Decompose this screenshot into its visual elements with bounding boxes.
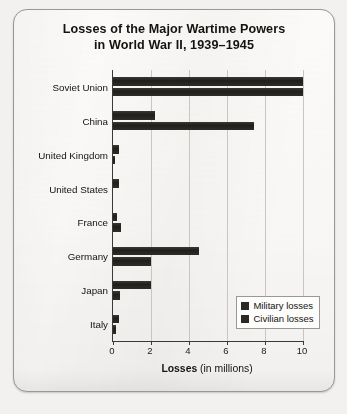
bar [113,156,115,165]
bar [113,179,119,188]
x-tick-label: 0 [109,345,114,356]
bar [113,223,121,232]
x-tick-label: 8 [261,345,266,356]
y-axis-label: Italy [90,319,108,330]
x-tick-label: 10 [297,345,308,356]
plot-wrapper: 0246810 Soviet UnionChinaUnited KingdomU… [14,66,334,392]
y-axis-label: China [82,115,108,126]
bar [113,281,151,290]
chart-legend: Military lossesCivilian losses [236,296,319,329]
x-tick-label: 2 [147,345,152,356]
legend-label: Military losses [253,300,313,312]
y-axis-label: United States [49,183,108,194]
y-axis-label: United Kingdom [38,149,108,160]
y-axis-label: Soviet Union [52,81,108,92]
x-tick-label: 4 [185,345,190,356]
legend-swatch-icon [241,302,249,310]
bar [113,291,120,300]
bar [113,325,116,334]
bar [113,122,254,131]
y-axis-label: Germany [68,251,108,262]
legend-entry: Civilian losses [241,313,313,325]
bar [113,145,119,154]
gridline [189,70,190,341]
bar [113,257,151,266]
x-axis-title-strong: Losses [161,363,197,374]
chart-title: Losses of the Major Wartime Powers in Wo… [14,22,334,53]
bar [113,88,303,97]
y-axis-label: Japan [81,285,108,296]
x-axis-title: Losses (in millions) [112,363,302,374]
bar [113,111,155,120]
bar [113,315,119,324]
bar [113,213,117,222]
chart-figure-card: Losses of the Major Wartime Powers in Wo… [13,9,335,392]
x-tick-label: 6 [223,345,228,356]
gridline [227,70,228,341]
bar [113,247,199,256]
legend-label: Civilian losses [253,313,313,325]
chart-title-line-2: in World War II, 1939–1945 [14,38,334,54]
chart-title-line-1: Losses of the Major Wartime Powers [14,22,334,38]
legend-swatch-icon [241,315,249,323]
y-axis-label: France [78,217,109,228]
legend-entry: Military losses [241,300,313,312]
x-axis-title-rest: (in millions) [197,363,252,374]
bar [113,77,303,86]
